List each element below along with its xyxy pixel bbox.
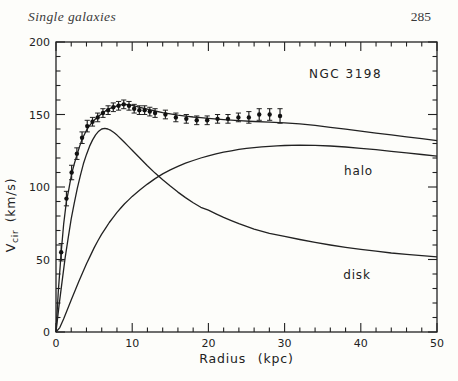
data-point	[85, 120, 90, 132]
x-axis	[56, 42, 437, 332]
data-point	[267, 109, 272, 121]
data-point	[142, 106, 147, 115]
data-point	[147, 107, 152, 116]
rotation-curve-chart: 01020304050050100150200Radius (kpc)Vcir …	[0, 31, 458, 381]
data-point	[163, 110, 168, 119]
data-point	[215, 115, 220, 124]
data-point	[59, 244, 64, 261]
y-tick-label: 150	[29, 109, 50, 122]
page-header: Single galaxies 285	[28, 9, 431, 25]
data-point	[277, 109, 282, 124]
y-tick-label: 50	[36, 254, 50, 267]
y-axis	[56, 42, 437, 332]
x-tick-label: 10	[125, 337, 139, 350]
series-disk	[56, 128, 437, 332]
x-tick-label: 30	[278, 337, 292, 350]
y-tick-label: 200	[29, 36, 50, 49]
x-tick-label: 0	[53, 337, 60, 350]
annotation-halo-label: halo	[344, 164, 373, 178]
data-point	[116, 101, 121, 110]
data-point	[205, 116, 210, 125]
x-tick-labels: 01020304050	[53, 337, 445, 350]
data-point	[100, 109, 105, 118]
y-tick-label: 100	[29, 181, 50, 194]
y-tick-labels: 050100150200	[29, 36, 50, 339]
y-tick-label: 0	[43, 326, 50, 339]
y-axis-title: Vcir (km/s)	[3, 178, 20, 253]
data-point	[95, 113, 100, 122]
data-point	[257, 109, 262, 121]
x-axis-title: Radius (kpc)	[199, 351, 293, 366]
book-page: Single galaxies 285 01020304050050100150…	[0, 0, 458, 381]
x-tick-label: 20	[201, 337, 215, 350]
data-point	[79, 132, 84, 144]
observed-points	[59, 100, 283, 261]
data-point	[121, 100, 126, 109]
running-head-title: Single galaxies	[28, 9, 116, 25]
x-tick-label: 50	[430, 337, 444, 350]
x-tick-label: 40	[354, 337, 368, 350]
series-halo	[56, 145, 437, 332]
data-point	[225, 115, 230, 124]
annotation-galaxy-name: NGC 3198	[309, 67, 382, 81]
plot-frame	[56, 42, 437, 332]
data-point	[126, 101, 131, 110]
data-point	[106, 106, 111, 115]
data-point	[111, 103, 116, 112]
annotation-disk-label: disk	[343, 268, 370, 282]
page-number: 285	[411, 9, 431, 25]
